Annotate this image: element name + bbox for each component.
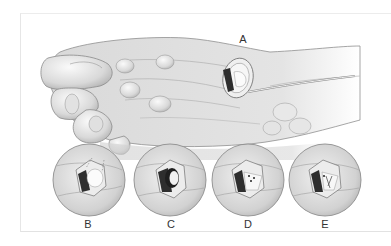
inset-b <box>53 144 125 216</box>
label-c: C <box>167 219 175 230</box>
label-d: D <box>244 219 252 230</box>
inset-e <box>289 144 361 216</box>
inset-c <box>134 144 206 216</box>
inset-d <box>212 144 284 216</box>
label-a: A <box>239 34 246 45</box>
label-b: B <box>84 219 91 230</box>
label-e: E <box>321 219 328 230</box>
hand-illustration <box>0 0 391 246</box>
